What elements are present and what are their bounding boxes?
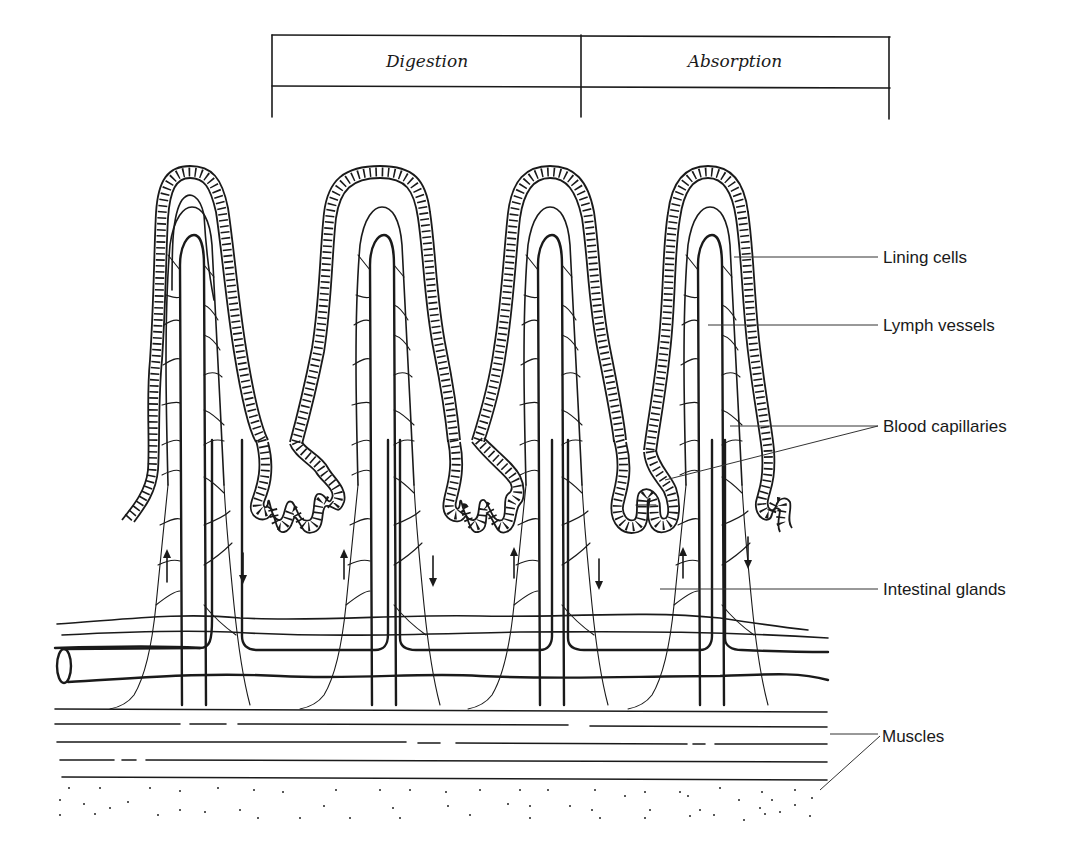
- villus-1: [110, 166, 268, 709]
- label-blood-capillaries: Blood capillaries: [883, 417, 1007, 436]
- label-lymph-vessels: Lymph vessels: [883, 316, 995, 335]
- serosa-stipple: [59, 787, 813, 821]
- phase-label-digestion: Digestion: [385, 51, 468, 71]
- label-muscles: Muscles: [882, 727, 944, 746]
- arrow-up-icon: [340, 549, 348, 579]
- callout-blood-capillaries: Blood capillaries: [665, 417, 1007, 480]
- arrow-down-icon: [595, 559, 603, 590]
- arrow-down-icon: [429, 556, 437, 587]
- villus-4: [628, 166, 774, 709]
- flow-arrows: [163, 537, 752, 590]
- label-lining-cells: Lining cells: [883, 248, 967, 267]
- callout-muscles: Muscles: [820, 727, 944, 790]
- villi-diagram: Digestion Absorption: [0, 0, 1088, 846]
- villus-3: [468, 166, 626, 709]
- label-intestinal-glands: Intestinal glands: [883, 580, 1006, 599]
- arrow-up-icon: [163, 549, 171, 582]
- phase-label-absorption: Absorption: [686, 51, 783, 71]
- villus-2: [290, 166, 460, 709]
- muscle-layers: [55, 709, 827, 780]
- phase-table: Digestion Absorption: [272, 35, 890, 119]
- callout-lining-cells: Lining cells: [734, 248, 967, 267]
- arrow-down-icon: [744, 537, 752, 569]
- submucosa-vessels: [55, 440, 828, 683]
